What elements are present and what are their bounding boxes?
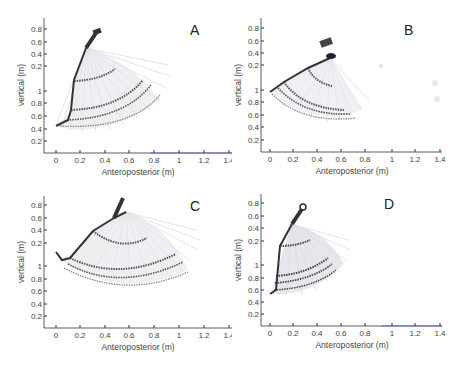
svg-text:0.8: 0.8 (148, 331, 160, 340)
svg-text:0.4: 0.4 (31, 125, 43, 134)
svg-text:0.6: 0.6 (248, 111, 260, 120)
svg-text:0: 0 (268, 329, 273, 338)
panel-a: A 0.8 0.6 0.4 0.2 1 0.8 0.6 0.4 0.2 0 (0, 0, 232, 182)
svg-text:0.4: 0.4 (248, 224, 260, 233)
svg-text:0.6: 0.6 (248, 37, 260, 46)
svg-text:1.2: 1.2 (198, 331, 210, 340)
svg-text:0.4: 0.4 (248, 123, 260, 132)
svg-text:0.8: 0.8 (359, 155, 371, 164)
svg-text:0.8: 0.8 (148, 156, 160, 165)
svg-text:0.8: 0.8 (31, 25, 43, 34)
y-ticks: 0.8 0.6 0.4 0.2 1 0.8 0.6 0.4 0.2 (31, 25, 47, 146)
svg-text:0.8: 0.8 (31, 99, 43, 108)
svg-text:1.2: 1.2 (198, 156, 210, 165)
svg-text:0.2: 0.2 (287, 155, 299, 164)
fan-drawing (56, 28, 170, 133)
panel-c: C 0.8 0.6 0.4 0.2 1 0.8 0.6 0.4 0.2 0 0.… (0, 182, 232, 365)
svg-text:1: 1 (255, 261, 260, 270)
svg-text:0.2: 0.2 (248, 61, 260, 70)
svg-text:0.6: 0.6 (31, 112, 43, 121)
svg-text:0.4: 0.4 (99, 331, 111, 340)
svg-text:0.4: 0.4 (99, 156, 111, 165)
svg-text:0.4: 0.4 (31, 226, 43, 235)
panel-letter-a: A (190, 22, 200, 38)
svg-text:0.4: 0.4 (248, 298, 260, 307)
x-axis-label: Anteroposterior (m) (315, 166, 388, 176)
x-ticks: 0 0.2 0.4 0.6 0.8 1 1.2 1.4 (54, 325, 232, 340)
svg-text:1: 1 (177, 331, 182, 340)
svg-text:0.6: 0.6 (335, 155, 347, 164)
x-axis-label: Anteroposterior (m) (101, 167, 174, 177)
svg-text:0.8: 0.8 (248, 98, 260, 107)
svg-text:0.6: 0.6 (123, 156, 135, 165)
svg-text:0.8: 0.8 (359, 329, 371, 338)
svg-text:1: 1 (38, 87, 43, 96)
svg-text:0: 0 (54, 331, 59, 340)
y-axis-label: vertical (m) (16, 64, 26, 106)
svg-text:0.2: 0.2 (31, 137, 43, 146)
fan-drawing (270, 204, 350, 295)
svg-text:1.4: 1.4 (223, 156, 232, 165)
x-axis-label: Anteroposterior (m) (315, 340, 388, 350)
svg-text:0: 0 (54, 156, 59, 165)
panel-d: D D 0.8 0.6 0.4 0.2 1 0.8 0.6 0.4 0.2 0 (232, 182, 465, 365)
svg-text:1: 1 (177, 156, 182, 165)
svg-text:D: D (384, 196, 394, 212)
svg-text:0.6: 0.6 (123, 331, 135, 340)
svg-text:0.2: 0.2 (31, 312, 43, 321)
svg-text:0.6: 0.6 (31, 38, 43, 47)
svg-text:0.2: 0.2 (74, 156, 86, 165)
svg-text:0.2: 0.2 (31, 239, 43, 248)
svg-text:0.8: 0.8 (31, 275, 43, 284)
svg-text:1: 1 (390, 155, 395, 164)
svg-text:0.8: 0.8 (31, 201, 43, 210)
svg-text:1.2: 1.2 (409, 329, 421, 338)
svg-text:0.2: 0.2 (31, 62, 43, 71)
y-ticks: 0.8 0.6 0.4 0.2 1 0.8 0.6 0.4 0.2 (31, 201, 47, 321)
y-axis-label: vertical (m) (233, 239, 243, 281)
svg-text:0.2: 0.2 (248, 237, 260, 246)
panel-letter-c: C (190, 198, 200, 214)
svg-text:0.2: 0.2 (74, 331, 86, 340)
x-axis-label: Anteroposterior (m) (101, 342, 174, 352)
panel-b: B 0.8 0.6 0.4 0.2 1 0.8 0.6 0.4 0.2 0 0.… (232, 0, 465, 182)
svg-text:1: 1 (390, 329, 395, 338)
y-axis-label: vertical (m) (16, 241, 26, 283)
svg-text:0.6: 0.6 (31, 214, 43, 223)
svg-text:0.2: 0.2 (287, 329, 299, 338)
svg-text:0.4: 0.4 (248, 49, 260, 58)
svg-text:1.4: 1.4 (434, 329, 446, 338)
svg-text:0.2: 0.2 (248, 310, 260, 319)
x-ticks: 0 0.2 0.4 0.6 0.8 1 1.2 1.4 (268, 323, 446, 338)
svg-text:1.4: 1.4 (434, 155, 446, 164)
svg-text:0.6: 0.6 (248, 212, 260, 221)
svg-text:0.6: 0.6 (31, 287, 43, 296)
svg-text:1: 1 (38, 262, 43, 271)
svg-text:1.4: 1.4 (223, 331, 232, 340)
svg-text:0.8: 0.8 (248, 274, 260, 283)
y-ticks: 0.8 0.6 0.4 0.2 1 0.8 0.6 0.4 0.2 (248, 24, 264, 145)
svg-text:0.8: 0.8 (248, 199, 260, 208)
svg-text:0.8: 0.8 (248, 24, 260, 33)
svg-text:0.4: 0.4 (31, 300, 43, 309)
fan-drawing (270, 37, 440, 122)
panel-letter-b: B (404, 22, 413, 38)
svg-text:0.6: 0.6 (248, 286, 260, 295)
svg-text:0.4: 0.4 (31, 50, 43, 59)
svg-text:0.4: 0.4 (311, 155, 323, 164)
y-ticks: 0.8 0.6 0.4 0.2 1 0.8 0.6 0.4 0.2 (248, 199, 264, 319)
svg-text:0.6: 0.6 (335, 329, 347, 338)
x-ticks: 0 0.2 0.4 0.6 0.8 1 1.2 1.4 (54, 150, 232, 165)
svg-text:0: 0 (268, 155, 273, 164)
y-axis-label: vertical (m) (233, 64, 243, 106)
svg-text:1.2: 1.2 (409, 155, 421, 164)
x-ticks: 0 0.2 0.4 0.6 0.8 1 1.2 1.4 (268, 149, 446, 164)
svg-text:0.2: 0.2 (248, 136, 260, 145)
svg-text:1: 1 (255, 86, 260, 95)
fan-drawing (56, 198, 200, 285)
svg-text:0.4: 0.4 (311, 329, 323, 338)
